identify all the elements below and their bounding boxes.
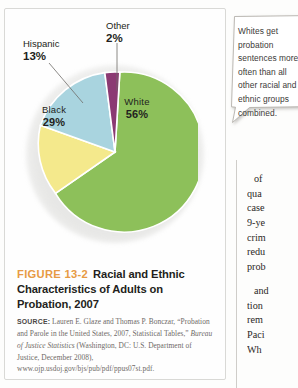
body-line: rem xyxy=(247,313,298,328)
pie-graphic xyxy=(32,69,198,235)
body-line: Wh xyxy=(247,343,298,358)
callout-balloon: Whites get probation sentences more ofte… xyxy=(229,14,298,136)
paragraph-gap xyxy=(247,275,298,284)
body-line: of xyxy=(247,172,298,187)
pie-label-hispanic: Hispanic 13% xyxy=(23,39,85,63)
body-line: tion xyxy=(247,299,298,314)
body-line: 9-ye xyxy=(247,216,298,231)
caption-title: FIGURE 13-2Racial and Ethnic Characteris… xyxy=(17,267,215,311)
pie-label-other: Other 2% xyxy=(106,21,150,45)
pie-label-other-percent: 2% xyxy=(106,32,150,45)
body-line: case xyxy=(247,201,298,216)
pie-label-other-name: Other xyxy=(106,21,150,32)
column-divider-rule xyxy=(236,160,237,388)
pie-label-hispanic-name: Hispanic xyxy=(23,39,85,50)
body-line: Paci xyxy=(247,328,298,343)
callout-text: Whites get probation sentences more ofte… xyxy=(238,25,298,120)
body-text-column: of qua case 9-ye crim redu prob and tion… xyxy=(247,172,298,388)
figure-caption: FIGURE 13-2Racial and Ethnic Characteris… xyxy=(17,267,215,375)
body-line: redu xyxy=(247,245,298,260)
source-label: SOURCE: xyxy=(17,318,50,325)
body-line: prob xyxy=(247,260,298,275)
body-line: crim xyxy=(247,231,298,246)
figure-number: FIGURE 13-2 xyxy=(17,268,88,280)
pie-slices xyxy=(32,69,198,235)
body-line: qua xyxy=(247,187,298,202)
pie-label-hispanic-percent: 13% xyxy=(23,50,85,63)
figure-panel: White 56% Black 29% Hispanic 13% Other 2… xyxy=(4,8,226,380)
pie-chart: White 56% Black 29% Hispanic 13% Other 2… xyxy=(5,9,225,261)
body-line: and xyxy=(247,284,298,299)
figure-source: SOURCE: Lauren E. Glaze and Thomas P. Bo… xyxy=(17,316,215,375)
